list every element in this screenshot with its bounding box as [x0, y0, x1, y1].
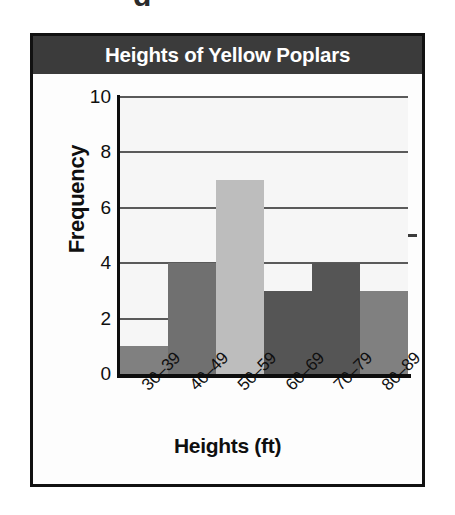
plot-area [120, 97, 408, 374]
gridline [120, 262, 408, 264]
gridline [120, 207, 408, 209]
chart-title-banner: Heights of Yellow Poplars [33, 36, 422, 74]
bar-50–59[interactable] [216, 180, 264, 374]
y-axis-title: Frequency [64, 119, 90, 279]
y-tick-label: 8 [100, 141, 111, 163]
right-edge-tick-artifact [408, 234, 417, 237]
y-tick-label: 4 [100, 252, 111, 274]
y-tick-label: 6 [100, 197, 111, 219]
y-axis-line [117, 95, 120, 376]
gridline [120, 151, 408, 153]
chart-figure-frame: Heights of Yellow Poplars Frequency 0246… [30, 33, 425, 487]
y-tick-label: 2 [100, 308, 111, 330]
y-tick-label: 0 [100, 363, 111, 385]
x-axis-title: Heights (ft) [33, 434, 422, 458]
chart-title: Heights of Yellow Poplars [105, 43, 350, 67]
plot-wrapper: 0246810 30–3940–4950–5960–6970–7980–89 [120, 97, 408, 374]
gridline [120, 96, 408, 98]
scan-artifact-glyph: g [133, 0, 173, 6]
y-tick-label: 10 [90, 86, 111, 108]
